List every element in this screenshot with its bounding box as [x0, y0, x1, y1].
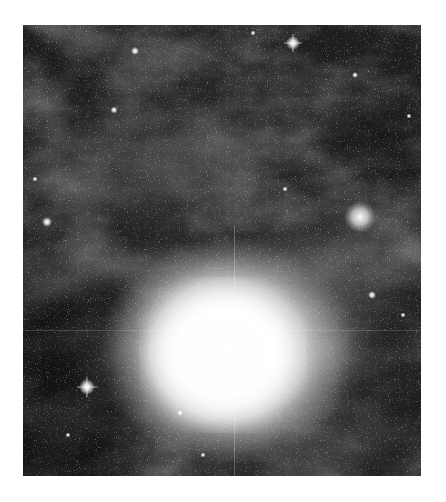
nebula-image — [23, 25, 421, 476]
nebula-photograph — [23, 25, 421, 476]
globular-cluster — [344, 201, 376, 233]
